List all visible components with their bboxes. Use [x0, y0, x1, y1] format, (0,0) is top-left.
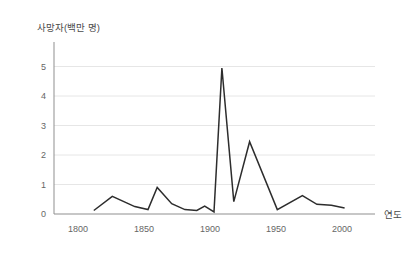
y-axis-title: 사망자(백만 명) — [37, 22, 100, 34]
y-tick-label: 4 — [41, 91, 46, 101]
y-tick-label: 0 — [41, 209, 46, 219]
line-chart: 01234518001850190019502000 사망자(백만 명) 연도 — [0, 0, 420, 253]
x-tick-label: 2000 — [332, 224, 352, 234]
x-tick-label: 1950 — [266, 224, 286, 234]
x-tick-label: 1850 — [134, 224, 154, 234]
y-tick-label: 2 — [41, 150, 46, 160]
x-tick-label: 1800 — [68, 224, 88, 234]
chart-canvas: 01234518001850190019502000 — [0, 0, 420, 253]
y-tick-label: 1 — [41, 180, 46, 190]
death-line-series — [94, 68, 345, 212]
y-tick-label: 3 — [41, 121, 46, 131]
x-axis-title: 연도 — [384, 209, 402, 221]
y-tick-label: 5 — [41, 62, 46, 72]
x-tick-label: 1900 — [200, 224, 220, 234]
